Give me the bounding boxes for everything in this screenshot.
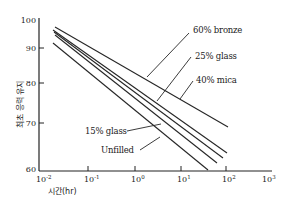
x-tick-label: 10-1 <box>84 174 100 184</box>
label-15-glass: 15% glass <box>85 126 127 136</box>
leader-unfilled <box>140 137 160 150</box>
label-unfilled: Unfilled <box>101 145 135 155</box>
x-tick-label: 100 <box>131 174 145 184</box>
y-tick-label: 70 <box>26 119 36 128</box>
leader-lines <box>127 33 193 150</box>
y-tick-label: 80 <box>26 79 36 88</box>
x-tick-label: 103 <box>262 174 276 184</box>
y-axis-title: 최초 응력 유지 <box>15 81 25 128</box>
series-15-glass <box>55 35 217 163</box>
label-60-bronze: 60% bronze <box>193 25 242 35</box>
label-25-glass: 25% glass <box>195 51 237 61</box>
series-lines <box>53 27 228 170</box>
y-tick-label: 90 <box>26 44 36 53</box>
x-tick-label: 10-2 <box>36 174 52 184</box>
x-ticks: 10-2 10-1 100 101 102 103 <box>36 166 276 184</box>
stress-relaxation-chart: 100 90 80 70 60 10-2 10-1 100 101 102 10… <box>0 0 290 205</box>
leader-40-mica <box>180 81 193 99</box>
y-tick-label: 100 <box>21 16 36 25</box>
axes <box>39 18 272 171</box>
label-40-mica: 40% mica <box>196 75 237 85</box>
x-tick-label: 101 <box>177 174 191 184</box>
leader-25-glass <box>157 57 191 101</box>
x-tick-label: 102 <box>222 174 236 184</box>
leader-60-bronze <box>147 33 189 77</box>
y-tick-label: 60 <box>26 165 36 174</box>
series-25-glass <box>53 30 227 153</box>
x-axis-title: 시간(hr) <box>48 186 77 196</box>
